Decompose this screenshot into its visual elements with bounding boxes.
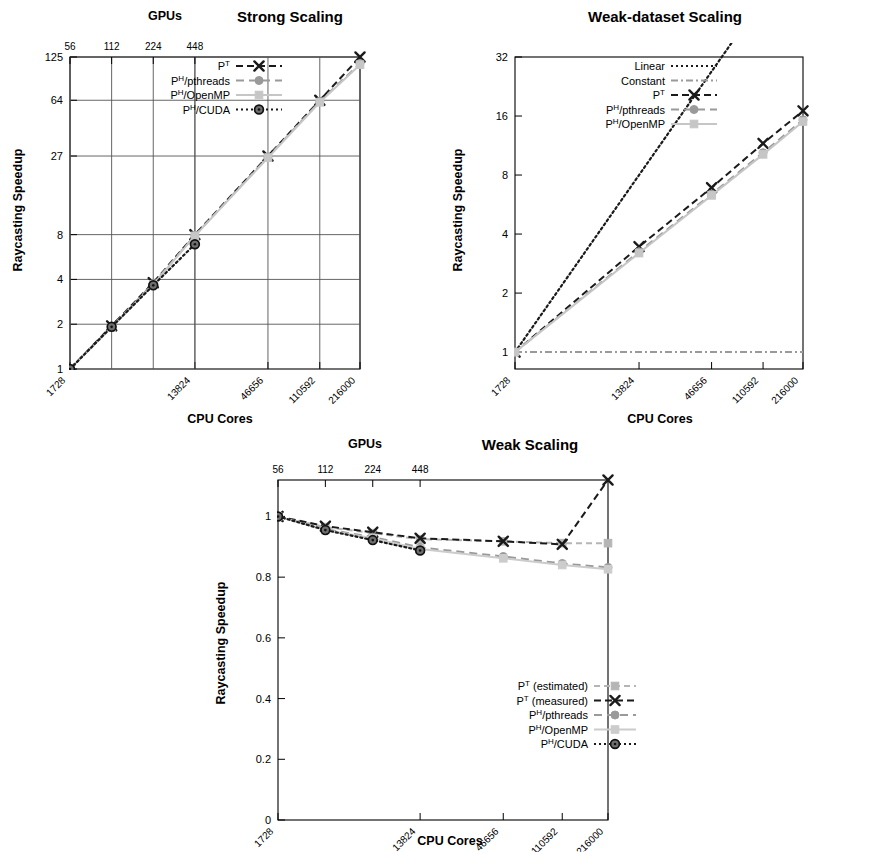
series-marker: [356, 61, 364, 69]
top-tick-label: 56: [64, 41, 76, 52]
y-tick-label: 27: [51, 150, 63, 162]
legend-marker-sample: [611, 711, 619, 719]
x-tick-label: 1728: [489, 374, 513, 398]
y-tick-label: 4: [502, 228, 508, 240]
legend-label: PH/CUDA: [183, 103, 231, 116]
plot-area: 1248276412517281382446656110592216000561…: [44, 41, 365, 406]
series-marker-core: [371, 539, 374, 542]
x-tick-label: 216000: [326, 374, 358, 406]
chart-strong-scaling: Strong Scaling GPUs Raycasting Speedup C…: [0, 0, 440, 430]
top-axis-label: GPUs: [348, 437, 382, 451]
legend-label: PH/OpenMP: [528, 723, 588, 736]
legend-label: PT: [218, 59, 230, 72]
legend-label: PH/OpenMP: [605, 117, 665, 130]
series-marker-core: [69, 368, 72, 371]
y-tick-label: 1: [265, 510, 271, 522]
legend-label: PT (estimated): [518, 679, 588, 692]
legend-label: PT: [653, 88, 665, 101]
legend-marker-sample-core: [258, 108, 261, 111]
series-marker: [759, 151, 767, 159]
series-marker: [264, 154, 272, 162]
top-tick-label: 224: [364, 464, 381, 475]
y-tick-label: 0.8: [256, 571, 271, 583]
series-marker: [758, 139, 767, 148]
legend-marker-sample: [611, 682, 619, 690]
x-tick-label: 13824: [165, 374, 193, 402]
legend-marker-sample: [690, 106, 698, 114]
legend-marker-sample: [611, 726, 619, 734]
top-tick-label: 112: [104, 41, 120, 52]
x-tick-label: 1728: [252, 825, 276, 849]
series-marker-core: [324, 529, 327, 532]
legend-label: PH/pthreads: [529, 708, 588, 721]
series-marker-core: [419, 549, 422, 552]
x-tick-label: 46656: [238, 374, 266, 402]
legend-label: PH/pthreads: [171, 74, 230, 87]
series-marker: [604, 539, 612, 547]
y-tick-label: 64: [51, 94, 63, 106]
legend-label: PH/CUDA: [541, 737, 589, 750]
plot-area: 00.20.40.60.8117281382446656110592216000…: [252, 464, 636, 852]
y-tick-label: 8: [57, 229, 63, 241]
chart-title: Strong Scaling: [237, 8, 343, 25]
x-tick-label: 110592: [529, 825, 560, 852]
chart-weak-dataset-scaling: Weak-dataset Scaling Raycasting Speedup …: [440, 0, 879, 430]
y-tick-label: 32: [496, 51, 508, 63]
x-tick-label: 46656: [682, 374, 710, 402]
x-tick-label: 216000: [769, 374, 801, 406]
x-axis-label: CPU Cores: [187, 412, 252, 426]
chart-title: Weak-dataset Scaling: [588, 8, 742, 25]
y-tick-label: 8: [502, 169, 508, 181]
series-marker-core: [194, 243, 197, 246]
legend-label: Linear: [634, 60, 665, 72]
top-tick-label: 448: [187, 41, 204, 52]
weak-dataset-scaling-svg: Weak-dataset Scaling Raycasting Speedup …: [440, 0, 879, 430]
weak-scaling-svg: Weak Scaling GPUs Raycasting Speedup CPU…: [200, 428, 680, 852]
chart-legend: PT (estimated)PT (measured)PH/pthreadsPH…: [516, 679, 636, 750]
chart-title: Weak Scaling: [482, 436, 578, 453]
strong-scaling-svg: Strong Scaling GPUs Raycasting Speedup C…: [0, 0, 440, 430]
top-tick-label: 448: [412, 464, 429, 475]
legend-label: PH/OpenMP: [170, 88, 230, 101]
series-marker: [316, 99, 324, 107]
legend-label: PT (measured): [516, 694, 588, 707]
legend-marker-sample: [255, 91, 263, 99]
y-tick-label: 1: [57, 363, 63, 375]
chart-legend: PTPH/pthreadsPH/OpenMPPH/CUDA: [170, 59, 282, 116]
y-tick-label: 125: [45, 51, 63, 63]
plot-area: 1248163217281382446656110592216000Linear…: [489, 0, 808, 406]
x-axis-label: CPU Cores: [627, 412, 692, 426]
y-axis-label: Raycasting Speedup: [214, 581, 228, 704]
series-marker: [191, 232, 199, 240]
x-tick-label: 13824: [390, 825, 418, 852]
series-line: [515, 0, 803, 352]
chart-weak-scaling: Weak Scaling GPUs Raycasting Speedup CPU…: [200, 428, 680, 852]
y-tick-label: 2: [502, 287, 508, 299]
legend-marker-sample-core: [614, 743, 617, 746]
top-tick-label: 112: [317, 464, 333, 475]
series-group: [273, 475, 612, 573]
top-tick-label: 224: [145, 41, 162, 52]
y-tick-label: 0.4: [256, 693, 271, 705]
x-tick-label: 216000: [574, 825, 606, 852]
series-marker: [604, 565, 612, 573]
chart-legend: LinearConstantPTPH/pthreadsPH/OpenMP: [605, 60, 717, 130]
x-tick-label: 110592: [286, 374, 317, 405]
series-group: [510, 0, 807, 357]
y-tick-label: 4: [57, 273, 63, 285]
series-marker-core: [277, 515, 280, 518]
x-tick-label: 1728: [44, 374, 68, 398]
legend-marker-sample: [255, 77, 263, 85]
series-marker: [708, 192, 716, 200]
top-axis-label: GPUs: [148, 9, 182, 23]
legend-label: Constant: [621, 75, 665, 87]
series-marker-core: [110, 326, 113, 329]
series-marker-core: [152, 284, 155, 287]
legend-label: PH/pthreads: [606, 103, 665, 116]
y-tick-label: 2: [57, 318, 63, 330]
y-tick-label: 0: [265, 814, 271, 826]
y-tick-label: 1: [502, 346, 508, 358]
legend-marker-sample: [690, 120, 698, 128]
y-tick-label: 0.2: [256, 753, 271, 765]
y-axis-label: Raycasting Speedup: [451, 148, 465, 271]
